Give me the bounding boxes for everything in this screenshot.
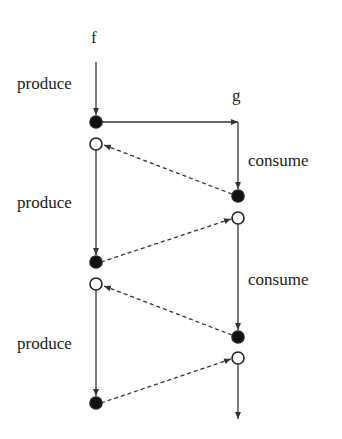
sync-dashed-arrow-2 [101,219,231,262]
produce-label-2: produce [17,193,72,212]
produce-label-3: produce [17,334,72,353]
f-hollow-node-1 [90,138,102,150]
g-hollow-node-2 [232,352,244,364]
process-label-g: g [232,86,241,105]
g-hollow-node-1 [232,212,244,224]
process-label-f: f [91,28,97,47]
f-filled-node-1 [90,116,102,128]
sync-dashed-arrow-1 [104,145,232,194]
sync-dashed-arrow-4 [101,359,231,403]
g-filled-node-2 [232,331,244,343]
f-filled-node-2 [90,256,102,268]
consume-label-1: consume [248,151,308,170]
g-filled-node-1 [232,190,244,202]
f-filled-node-3 [90,397,102,409]
sync-dashed-arrow-3 [104,286,232,335]
produce-label-1: produce [17,74,72,93]
f-hollow-node-2 [90,278,102,290]
produce-consume-diagram: f g produce produce produce consume cons… [0,0,342,439]
consume-label-2: consume [248,270,308,289]
